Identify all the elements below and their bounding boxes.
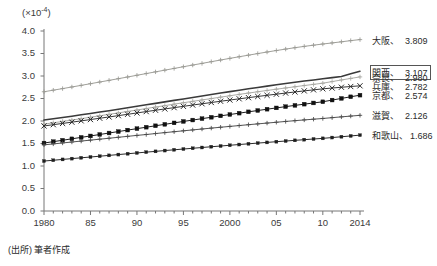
data-point-marker bbox=[200, 61, 204, 65]
x-axis-tick-label: 2014 bbox=[349, 217, 370, 228]
data-point-marker bbox=[88, 138, 92, 142]
data-point-marker bbox=[191, 147, 194, 150]
data-point-marker bbox=[321, 81, 325, 85]
data-point-marker bbox=[98, 137, 102, 141]
data-point-marker bbox=[70, 157, 73, 160]
legend-item-京都: 京都、2.574 bbox=[372, 89, 428, 102]
data-point-marker bbox=[43, 160, 46, 163]
data-point-marker bbox=[312, 101, 316, 105]
data-point-marker bbox=[283, 119, 287, 123]
x-axis-tick-label: 85 bbox=[85, 217, 96, 228]
data-point-marker bbox=[321, 42, 325, 46]
data-point-marker bbox=[237, 123, 241, 127]
data-point-marker bbox=[293, 85, 297, 89]
data-point-marker bbox=[144, 132, 148, 136]
data-point-marker bbox=[209, 59, 213, 63]
legend-series-value: 2.126 bbox=[405, 111, 428, 121]
data-point-marker bbox=[200, 117, 204, 121]
y-axis-tick-label: 1.0 bbox=[11, 160, 35, 171]
data-point-marker bbox=[256, 90, 260, 94]
data-point-marker bbox=[210, 145, 213, 148]
data-point-marker bbox=[256, 122, 260, 126]
data-point-marker bbox=[312, 138, 315, 141]
y-axis-tick-label: 0.0 bbox=[11, 205, 35, 216]
data-point-marker bbox=[135, 151, 138, 154]
x-axis-tick-label: 2000 bbox=[219, 217, 240, 228]
data-point-marker bbox=[144, 125, 148, 129]
data-point-marker bbox=[200, 127, 204, 131]
data-point-marker bbox=[70, 85, 74, 89]
data-point-marker bbox=[321, 100, 325, 104]
data-point-marker bbox=[293, 45, 297, 49]
data-point-marker bbox=[135, 133, 139, 137]
data-point-marker bbox=[79, 83, 83, 87]
data-point-marker bbox=[228, 144, 231, 147]
y-axis-tick-label: 2.0 bbox=[11, 115, 35, 126]
y-axis-tick-label: 1.5 bbox=[11, 137, 35, 148]
data-point-marker bbox=[330, 41, 334, 45]
data-point-marker bbox=[246, 122, 250, 126]
y-axis-tick-label: 2.5 bbox=[11, 92, 35, 103]
data-point-marker bbox=[358, 37, 362, 41]
data-point-marker bbox=[154, 150, 157, 153]
data-point-marker bbox=[135, 127, 139, 131]
y-axis-tick-label: 4.0 bbox=[11, 25, 35, 36]
data-point-marker bbox=[191, 128, 195, 132]
data-point-marker bbox=[108, 154, 111, 157]
data-point-marker bbox=[331, 136, 334, 139]
data-point-marker bbox=[311, 117, 315, 121]
data-point-marker bbox=[154, 124, 158, 128]
data-point-marker bbox=[283, 86, 287, 90]
data-point-marker bbox=[145, 151, 148, 154]
legend-label-group: 滋賀、2.126 bbox=[372, 109, 428, 122]
y-axis-tick-label: 0.5 bbox=[11, 182, 35, 193]
series-0 bbox=[42, 37, 362, 94]
legend-label-group: 京都、2.574 bbox=[372, 89, 428, 102]
x-axis-tick-label: 05 bbox=[271, 217, 282, 228]
data-point-marker bbox=[228, 94, 232, 98]
data-point-marker bbox=[163, 122, 167, 126]
data-point-marker bbox=[163, 149, 166, 152]
data-point-marker bbox=[349, 114, 353, 118]
data-point-marker bbox=[274, 120, 278, 124]
data-point-marker bbox=[330, 79, 334, 83]
data-point-marker bbox=[256, 142, 259, 145]
data-point-marker bbox=[330, 115, 334, 119]
legend-series-name: 京都、 bbox=[372, 89, 403, 102]
data-point-marker bbox=[116, 77, 120, 81]
data-point-marker bbox=[191, 118, 195, 122]
data-point-marker bbox=[228, 56, 232, 60]
legend-series-value: 3.809 bbox=[405, 36, 428, 46]
data-point-marker bbox=[107, 78, 111, 82]
data-point-marker bbox=[181, 129, 185, 133]
data-point-marker bbox=[349, 95, 353, 99]
x-axis-tick-label: 95 bbox=[178, 217, 189, 228]
legend-item-滋賀: 滋賀、2.126 bbox=[372, 109, 428, 122]
data-point-marker bbox=[79, 135, 83, 139]
data-point-marker bbox=[172, 66, 176, 70]
data-point-marker bbox=[125, 75, 129, 79]
data-point-marker bbox=[172, 121, 176, 125]
data-point-marker bbox=[172, 130, 176, 134]
data-point-marker bbox=[293, 103, 297, 107]
data-point-marker bbox=[340, 97, 344, 101]
data-point-marker bbox=[275, 140, 278, 143]
data-point-marker bbox=[358, 75, 362, 79]
data-point-marker bbox=[265, 121, 269, 125]
data-point-marker bbox=[302, 118, 306, 122]
data-point-marker bbox=[339, 115, 343, 119]
data-point-marker bbox=[79, 139, 83, 143]
data-point-marker bbox=[209, 96, 213, 100]
legend-item-大阪: 大阪、3.809 bbox=[372, 34, 428, 47]
data-point-marker bbox=[228, 124, 232, 128]
data-point-marker bbox=[330, 98, 334, 102]
data-point-marker bbox=[116, 130, 120, 134]
x-axis-tick-label: 1980 bbox=[33, 217, 54, 228]
data-point-marker bbox=[311, 82, 315, 86]
source-note: (出所) 筆者作成 bbox=[8, 243, 71, 256]
data-point-marker bbox=[274, 106, 278, 110]
data-point-marker bbox=[144, 71, 148, 75]
data-point-marker bbox=[182, 120, 186, 124]
data-point-marker bbox=[302, 83, 306, 87]
data-point-marker bbox=[274, 87, 278, 91]
